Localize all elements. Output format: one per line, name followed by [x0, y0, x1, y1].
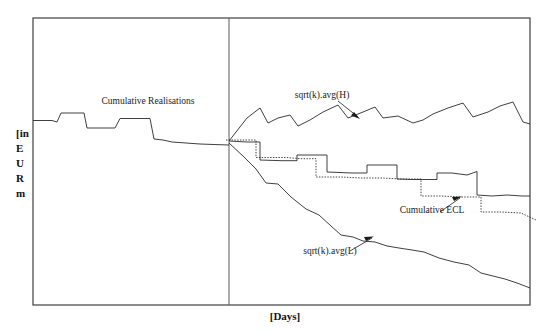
arrow-head-low: [364, 237, 374, 242]
series-cumulative-ecl: [226, 140, 536, 220]
chart-page: [in E U R m [Days] Cumulative Realisatio…: [0, 0, 545, 331]
series-cumulative-realisations: [33, 113, 229, 145]
line-chart-figure: [in E U R m [Days] Cumulative Realisatio…: [0, 0, 545, 331]
label-sqrt-k-avg-low: sqrt(k).avg(L): [303, 246, 357, 257]
y-axis-label-line-1: [in: [16, 127, 29, 139]
series-sqrt-k-avg-high: [229, 102, 530, 141]
arrow-head-high: [351, 112, 360, 119]
y-axis-label-line-3: U: [16, 157, 24, 169]
y-axis-label-line-5: m: [16, 187, 25, 199]
label-cumulative-realisations: Cumulative Realisations: [101, 96, 194, 106]
label-sqrt-k-avg-high: sqrt(k).avg(H): [295, 90, 350, 101]
series-middle-projection: [229, 141, 530, 196]
label-cumulative-ecl: Cumulative ECL: [400, 205, 465, 215]
y-axis-label-line-4: R: [16, 172, 25, 184]
y-axis-label-line-2: E: [16, 142, 23, 154]
x-axis-label: [Days]: [270, 310, 301, 322]
